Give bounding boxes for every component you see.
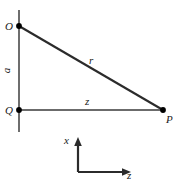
diagram-canvas <box>0 0 176 188</box>
geometry-diagram: O Q P r z a x z <box>0 0 176 188</box>
point-q-label: Q <box>5 105 13 116</box>
axis-legend-z-label: z <box>127 170 131 181</box>
segment-r-line <box>19 26 163 110</box>
point-o-label: O <box>5 21 13 32</box>
point-p-label: P <box>166 114 173 125</box>
segment-r-label: r <box>89 55 93 66</box>
axis-legend-x-label: x <box>64 135 69 146</box>
point-q-dot <box>16 107 22 113</box>
segment-a-label: a <box>1 68 12 74</box>
point-o-dot <box>16 23 22 29</box>
segment-z-label: z <box>85 96 89 107</box>
axis-legend-x-arrowhead <box>74 137 82 146</box>
